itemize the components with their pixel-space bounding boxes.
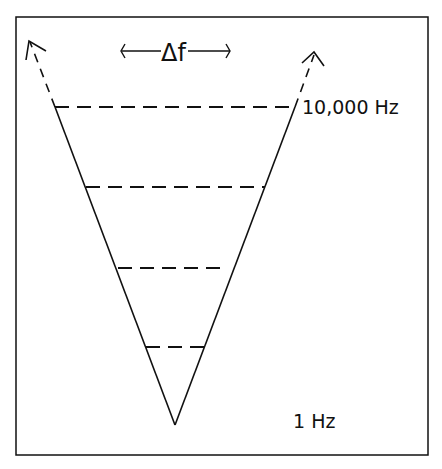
frequency-cone-diagram: Δf 10,000 Hz 1 Hz <box>0 0 442 469</box>
delta-f-label: Δf <box>161 39 186 67</box>
top-frequency-label: 10,000 Hz <box>302 96 399 118</box>
left-extension-dashed <box>30 42 55 107</box>
cone-right-side <box>175 107 295 425</box>
frame <box>16 17 428 455</box>
bottom-frequency-label: 1 Hz <box>293 410 335 432</box>
cone-left-side <box>55 107 175 425</box>
